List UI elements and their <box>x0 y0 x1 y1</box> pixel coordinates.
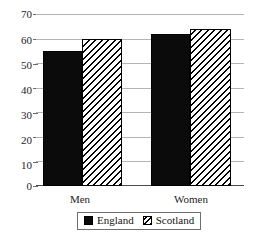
legend-label-england: England <box>97 215 134 226</box>
bar-chart-figure: 70 60 50 40 30 20 10 0 Men Women <box>0 0 258 246</box>
y-tick-mark-0 <box>33 186 38 187</box>
y-tick-label-10: 10 <box>4 160 32 171</box>
y-tick-label-20: 20 <box>4 135 32 146</box>
caption-sliver <box>3 238 183 246</box>
y-tick-label-70: 70 <box>4 9 32 20</box>
x-tick-label-women: Women <box>167 194 215 205</box>
y-tick-label-0: 0 <box>4 181 32 192</box>
y-tick-label-40: 40 <box>4 85 32 96</box>
plot-area <box>36 14 244 186</box>
bar-men-scotland <box>82 39 122 186</box>
y-tick-label-60: 60 <box>4 35 32 46</box>
bar-women-england <box>151 34 190 186</box>
y-tick-label-30: 30 <box>4 110 32 121</box>
legend-entry-england: England <box>84 215 134 226</box>
y-tick-label-50: 50 <box>4 60 32 71</box>
legend-swatch-scotland-icon <box>143 216 152 225</box>
legend-entry-scotland: Scotland <box>143 215 195 226</box>
bar-men-england <box>43 51 82 186</box>
gridline-70 <box>36 14 244 15</box>
legend-swatch-england-icon <box>84 216 93 225</box>
bar-women-scotland <box>190 29 231 186</box>
x-tick-label-men: Men <box>58 194 102 205</box>
chart-legend: England Scotland <box>77 212 201 230</box>
legend-label-scotland: Scotland <box>156 215 195 226</box>
